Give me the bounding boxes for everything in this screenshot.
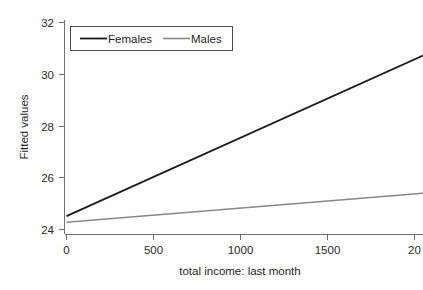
legend-label-males: Males xyxy=(191,33,222,45)
y-axis-title: Fitted values xyxy=(18,94,30,159)
legend-label-females: Females xyxy=(108,33,152,45)
y-tick-label-24: 24 xyxy=(41,224,54,236)
x-tick-label-0: 0 xyxy=(63,244,69,256)
x-tick-label-1000: 1000 xyxy=(228,244,254,256)
x-tick-label-500: 500 xyxy=(144,244,163,256)
x-tick-label-1500: 1500 xyxy=(315,244,341,256)
chart-legend[interactable]: Females Males xyxy=(71,27,233,51)
line-chart: 32 30 28 26 24 Fitted values 0 500 1000 … xyxy=(0,0,423,290)
chart-screenshot: 32 30 28 26 24 Fitted values 0 500 1000 … xyxy=(0,0,423,290)
x-axis-title: total income: last month xyxy=(179,265,300,277)
y-tick-label-26: 26 xyxy=(41,172,54,184)
y-tick-label-30: 30 xyxy=(41,69,54,81)
y-tick-label-28: 28 xyxy=(41,121,54,133)
y-tick-label-32: 32 xyxy=(41,17,54,29)
x-tick-label-2000: 20 xyxy=(408,244,421,256)
